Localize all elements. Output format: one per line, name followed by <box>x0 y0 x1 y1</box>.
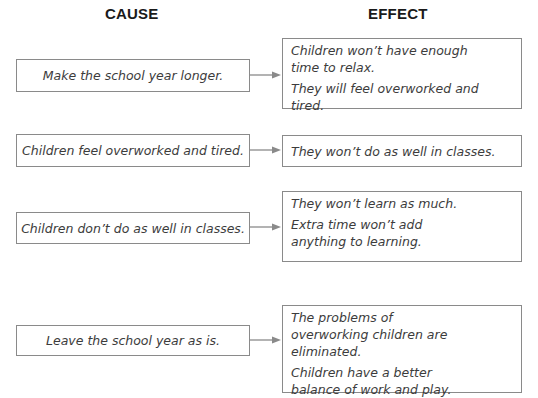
cause-column-heading: CAUSE <box>105 5 159 22</box>
effect-box-1: Children won’t have enough time to relax… <box>282 38 522 109</box>
cause-text: Children don’t do as well in classes. <box>21 220 245 237</box>
arrow-icon <box>250 70 282 80</box>
effect-box-3: They won’t learn as much. Extra time won… <box>282 191 522 262</box>
cause-box-4: Leave the school year as is. <box>16 325 250 356</box>
effect-text: The problems of overworking children are… <box>291 309 466 360</box>
cause-text: Leave the school year as is. <box>46 332 220 349</box>
arrow-icon <box>250 222 282 232</box>
cause-box-1: Make the school year longer. <box>16 59 250 92</box>
cause-text: Make the school year longer. <box>43 67 223 84</box>
effect-text: Children won’t have enough time to relax… <box>291 42 491 76</box>
cause-box-2: Children feel overworked and tired. <box>16 134 250 167</box>
effect-text: They won’t learn as much. <box>291 195 513 212</box>
effect-text: Children have a better balance of work a… <box>291 364 471 398</box>
effect-column-heading: EFFECT <box>368 5 428 22</box>
effect-box-4: The problems of overworking children are… <box>282 305 522 393</box>
cause-text: Children feel overworked and tired. <box>22 142 244 159</box>
effect-text: Extra time won’t add anything to learnin… <box>291 216 481 250</box>
effect-text: They won’t do as well in classes. <box>291 143 495 160</box>
arrow-icon <box>250 335 282 345</box>
arrow-icon <box>250 145 282 155</box>
cause-box-3: Children don’t do as well in classes. <box>16 212 250 244</box>
effect-text: They will feel overworked and tired. <box>291 80 513 114</box>
effect-box-2: They won’t do as well in classes. <box>282 135 522 167</box>
